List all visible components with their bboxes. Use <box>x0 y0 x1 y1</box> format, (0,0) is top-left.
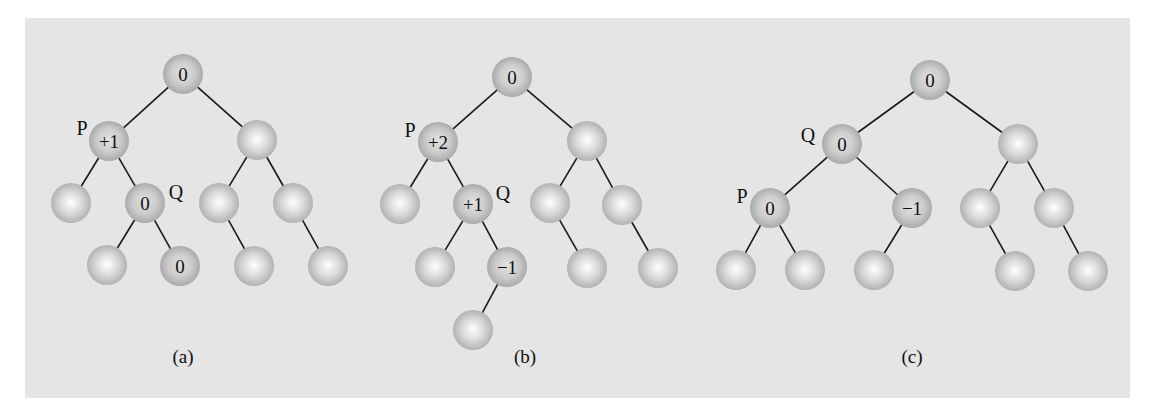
balance-factor-label: 0 <box>507 67 517 88</box>
tree-edge <box>856 90 917 134</box>
node-sphere <box>87 245 127 285</box>
node-sphere <box>1068 251 1108 291</box>
captions-layer: (a)(b)(c) <box>172 346 922 368</box>
tree-edge <box>451 88 499 131</box>
caption-a: (a) <box>172 346 193 368</box>
node-pointer-label-p: P <box>76 117 87 139</box>
tree-edge <box>80 155 100 188</box>
node-sphere <box>453 310 493 350</box>
node-sphere <box>602 185 642 225</box>
balance-factor-label: 0 <box>140 193 150 214</box>
balance-factor-label: 0 <box>178 64 188 85</box>
tree-node <box>273 183 313 223</box>
tree-edge <box>1026 159 1045 193</box>
tree-edge <box>153 218 171 251</box>
tree-node <box>308 246 348 286</box>
tree-c-nodes: 00Q0P−1 <box>716 60 1108 291</box>
tree-edge <box>227 218 245 251</box>
tree-node <box>995 251 1035 291</box>
tree-node <box>530 183 570 223</box>
node-sphere <box>234 246 274 286</box>
tree-node: 0 <box>910 60 950 100</box>
node-sphere <box>199 183 239 223</box>
balance-factor-label: −1 <box>497 257 517 278</box>
tree-node <box>51 183 91 223</box>
tree-edge <box>744 223 762 255</box>
node-pointer-label-q: Q <box>496 182 511 204</box>
node-sphere <box>716 250 756 290</box>
tree-node <box>567 248 607 288</box>
balance-factor-label: 0 <box>175 256 185 277</box>
node-sphere <box>567 248 607 288</box>
node-sphere <box>785 250 825 290</box>
tree-node <box>415 247 455 287</box>
balance-factor-label: +1 <box>463 194 483 215</box>
node-sphere <box>995 251 1035 291</box>
tree-a <box>80 85 320 251</box>
tree-node: 0P <box>736 185 790 228</box>
tree-edge <box>409 156 429 189</box>
tree-c <box>744 90 1080 256</box>
tree-edge <box>116 217 136 250</box>
node-sphere <box>998 124 1038 164</box>
tree-node <box>998 124 1038 164</box>
balance-factor-label: +1 <box>99 131 119 152</box>
node-sphere <box>1034 188 1074 228</box>
node-sphere <box>237 120 277 160</box>
tree-edge <box>559 156 579 189</box>
tree-node <box>1034 188 1074 228</box>
tree-edge <box>1062 223 1080 256</box>
balance-factor-label: 0 <box>765 198 775 219</box>
node-sphere <box>273 183 313 223</box>
tree-node <box>854 250 894 290</box>
tree-edge <box>446 157 464 189</box>
tree-edge <box>944 90 1005 134</box>
tree-node <box>453 310 493 350</box>
tree-node <box>199 183 239 223</box>
tree-node <box>1068 251 1108 291</box>
tree-node: −1 <box>487 247 527 287</box>
node-sphere <box>854 250 894 290</box>
tree-edge <box>118 156 137 189</box>
tree-edge <box>783 155 830 196</box>
node-pointer-label-p: P <box>404 119 415 141</box>
node-pointer-label-q: Q <box>169 181 184 203</box>
node-sphere <box>308 246 348 286</box>
avl-rotation-diagram: 0+1P0Q00+2P+1Q−100Q0P−1 (a)(b)(c) <box>0 0 1159 415</box>
tree-node <box>380 184 420 224</box>
tree-node: 0 <box>163 54 203 94</box>
tree-edge <box>481 282 499 315</box>
tree-b-nodes: 0+2P+1Q−1 <box>380 57 678 350</box>
tree-edge <box>265 155 284 188</box>
tree-edge <box>122 85 171 129</box>
tree-node <box>716 250 756 290</box>
tree-edge <box>228 155 248 189</box>
tree-edge <box>883 222 903 255</box>
balance-factor-label: 0 <box>925 70 935 91</box>
tree-node: 0Q <box>125 181 184 223</box>
tree-node: 0Q <box>801 124 862 164</box>
tree-edge <box>778 223 796 255</box>
tree-node: +1Q <box>453 182 511 224</box>
tree-node <box>638 248 678 288</box>
tree-node <box>960 188 1000 228</box>
node-sphere <box>415 247 455 287</box>
tree-edge <box>525 88 574 130</box>
tree-node <box>785 250 825 290</box>
node-sphere <box>638 248 678 288</box>
tree-edge <box>301 218 319 251</box>
tree-node: −1 <box>892 188 932 228</box>
node-sphere <box>530 183 570 223</box>
caption-b: (b) <box>514 346 536 368</box>
tree-edge <box>558 218 578 253</box>
tree-edge <box>630 220 649 253</box>
tree-node: 0 <box>492 57 532 97</box>
tree-node <box>87 245 127 285</box>
node-pointer-label-p: P <box>736 185 747 207</box>
node-sphere <box>51 183 91 223</box>
tree-edge <box>444 219 464 253</box>
balance-factor-label: 0 <box>837 134 847 155</box>
tree-node: +2P <box>404 119 458 162</box>
node-pointer-label-q: Q <box>801 124 816 146</box>
tree-edge <box>855 155 900 196</box>
